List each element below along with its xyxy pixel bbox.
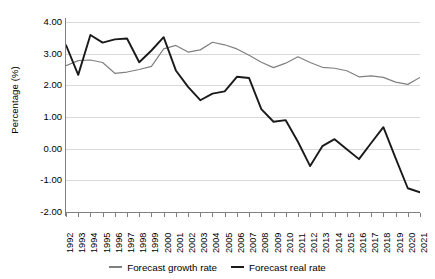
- y-axis-tick-label: 1.00: [20, 112, 62, 122]
- x-axis-tick-mark: [335, 213, 336, 217]
- series-line-2: [66, 35, 420, 192]
- x-axis-tick-label: 2012: [309, 233, 319, 253]
- x-axis-tick-label: 2013: [321, 233, 331, 253]
- x-axis-tick-labels: 1992199319941995199619971998199920002001…: [66, 213, 420, 261]
- y-axis-tick-labels: 4.003.002.001.000.00-1.00-2.00: [14, 22, 62, 212]
- x-axis-tick-mark: [188, 213, 189, 217]
- y-axis-tick-label: 4.00: [20, 17, 62, 27]
- x-axis-tick-label: 2001: [175, 233, 185, 253]
- plot-area: [66, 22, 420, 212]
- x-axis-tick-label: 2005: [224, 233, 234, 253]
- x-axis-tick-mark: [212, 213, 213, 217]
- x-axis-tick-mark: [396, 213, 397, 217]
- x-axis-tick-mark: [274, 213, 275, 217]
- x-axis-tick-label: 2000: [163, 233, 173, 253]
- legend-item[interactable]: Forecast real rate: [231, 262, 326, 273]
- x-axis-tick-label: 2011: [297, 233, 307, 253]
- legend-item[interactable]: Forecast growth rate: [109, 262, 217, 273]
- x-axis-tick-label: 2019: [395, 233, 405, 253]
- y-axis-tick-label: -1.00: [20, 175, 62, 185]
- x-axis-tick-mark: [420, 213, 421, 217]
- y-axis-tick-label: -2.00: [20, 207, 62, 217]
- x-axis-tick-label: 1993: [77, 233, 87, 253]
- x-axis-tick-label: 2006: [236, 233, 246, 253]
- x-axis-tick-mark: [127, 213, 128, 217]
- x-axis-tick-mark: [286, 213, 287, 217]
- x-axis-tick-label: 2017: [370, 233, 380, 253]
- x-axis-tick-mark: [371, 213, 372, 217]
- legend-label: Forecast growth rate: [127, 262, 217, 273]
- x-axis-tick-label: 2008: [260, 233, 270, 253]
- x-axis-tick-label: 2021: [419, 233, 429, 253]
- x-axis-tick-mark: [237, 213, 238, 217]
- x-axis-tick-mark: [359, 213, 360, 217]
- legend-swatch-icon: [109, 266, 122, 268]
- series-lines: [66, 22, 420, 212]
- x-axis-tick-label: 1996: [114, 233, 124, 253]
- legend-label: Forecast real rate: [249, 262, 326, 273]
- x-axis-tick-mark: [310, 213, 311, 217]
- y-axis-tick-label: 0.00: [20, 144, 62, 154]
- x-axis-tick-label: 1998: [138, 233, 148, 253]
- x-axis-tick-mark: [200, 213, 201, 217]
- x-axis-tick-mark: [225, 213, 226, 217]
- x-axis-tick-label: 2014: [334, 233, 344, 253]
- x-axis-tick-mark: [249, 213, 250, 217]
- x-axis-tick-label: 2015: [346, 233, 356, 253]
- x-axis-tick-label: 1999: [150, 233, 160, 253]
- x-axis-tick-mark: [66, 213, 67, 217]
- x-axis-tick-mark: [383, 213, 384, 217]
- x-axis-tick-mark: [322, 213, 323, 217]
- x-axis-tick-mark: [408, 213, 409, 217]
- x-axis-tick-label: 1997: [126, 233, 136, 253]
- x-axis-tick-label: 2002: [187, 233, 197, 253]
- x-axis-tick-label: 2009: [273, 233, 283, 253]
- x-axis-tick-label: 2003: [199, 233, 209, 253]
- x-axis-tick-label: 2016: [358, 233, 368, 253]
- x-axis-tick-mark: [176, 213, 177, 217]
- x-axis-tick-mark: [90, 213, 91, 217]
- x-axis-tick-label: 2018: [382, 233, 392, 253]
- x-axis-tick-mark: [139, 213, 140, 217]
- x-axis-tick-label: 2020: [407, 233, 417, 253]
- x-axis-tick-mark: [103, 213, 104, 217]
- x-axis-tick-mark: [151, 213, 152, 217]
- x-axis-tick-label: 1992: [65, 233, 75, 253]
- x-axis-tick-label: 1995: [102, 233, 112, 253]
- y-axis-tick-label: 3.00: [20, 49, 62, 59]
- legend-swatch-icon: [231, 266, 244, 269]
- x-axis-tick-label: 2004: [211, 233, 221, 253]
- x-axis-tick-mark: [261, 213, 262, 217]
- line-chart: Percentage (%) 4.003.002.001.000.00-1.00…: [0, 0, 435, 279]
- x-axis-tick-mark: [78, 213, 79, 217]
- y-axis-tick-label: 2.00: [20, 80, 62, 90]
- x-axis-tick-label: 1994: [89, 233, 99, 253]
- x-axis-tick-mark: [164, 213, 165, 217]
- x-axis-tick-label: 2007: [248, 233, 258, 253]
- x-axis-tick-mark: [298, 213, 299, 217]
- chart-legend: Forecast growth rateForecast real rate: [0, 258, 435, 276]
- x-axis-tick-mark: [347, 213, 348, 217]
- x-axis-tick-mark: [115, 213, 116, 217]
- x-axis-tick-label: 2010: [285, 233, 295, 253]
